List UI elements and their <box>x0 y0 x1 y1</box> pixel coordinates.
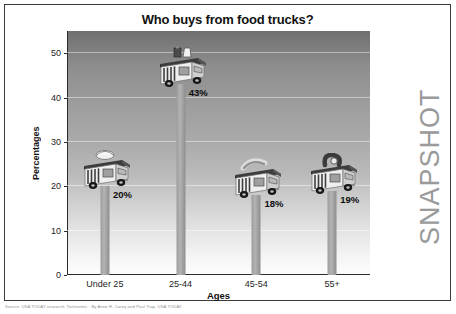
x-category-label: Under 25 <box>67 279 143 289</box>
bar <box>100 186 109 275</box>
bar-group: 20%Under 25 <box>67 31 143 275</box>
bar-value-label: 43% <box>189 87 208 98</box>
y-tick-label: 20 <box>51 181 61 191</box>
bar-group: 18%45-54 <box>219 31 295 275</box>
y-tick-label: 50 <box>51 48 61 58</box>
bar <box>176 84 185 275</box>
y-tick-label: 10 <box>51 226 61 236</box>
x-category-label: 45-54 <box>219 279 295 289</box>
bar <box>252 195 261 275</box>
bar-value-label: 20% <box>113 189 132 200</box>
bar-group: 43%25-44 <box>143 31 219 275</box>
snapshot-watermark: SNAPSHOT <box>412 49 448 285</box>
food-truck-icon <box>303 153 361 197</box>
y-tick-label: 40 <box>51 93 61 103</box>
plot-area: 01020304050 20%Under 2543%25-4418%45-541… <box>67 31 370 275</box>
bar-group: 19%55+ <box>294 31 370 275</box>
food-truck-icon <box>152 46 210 90</box>
x-category-label: 55+ <box>294 279 370 289</box>
snapshot-card: Who buys from food trucks? SNAPSHOT Perc… <box>4 4 451 301</box>
x-category-label: 25-44 <box>143 279 219 289</box>
y-axis-title: Percentages <box>29 31 43 275</box>
food-truck-icon <box>227 157 285 201</box>
bar-value-label: 19% <box>340 194 359 205</box>
tick-mark <box>64 275 67 276</box>
food-truck-icon <box>76 148 134 192</box>
bar-value-label: 18% <box>264 198 283 209</box>
bar <box>328 191 337 275</box>
page-title: Who buys from food trucks? <box>5 12 450 27</box>
y-tick-label: 0 <box>56 270 61 280</box>
y-tick-label: 30 <box>51 137 61 147</box>
x-axis-title: Ages <box>67 290 370 301</box>
source-note: Source: USA TODAY research; Technomic · … <box>5 304 182 309</box>
